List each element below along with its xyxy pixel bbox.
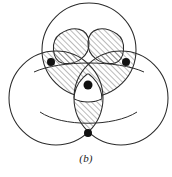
bottom-center-dot [84,129,92,137]
left-center-dot [47,58,55,66]
right-center-dot [122,58,130,66]
centroid-dot [84,81,93,90]
figure-caption: (b) [0,151,172,165]
figure-container: (b) [0,0,172,177]
